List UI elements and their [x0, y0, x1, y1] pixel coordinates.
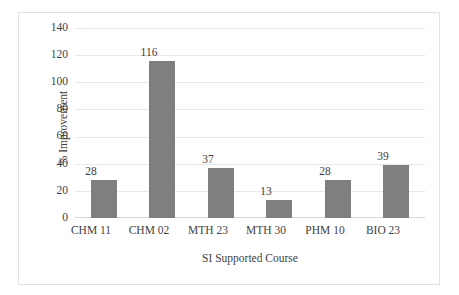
bar-chart-figure: % Improvement 140 120 100 80 60 40 20 0 … — [0, 0, 459, 295]
bar-phm-10[interactable] — [325, 180, 351, 218]
y-tick-label-20: 20 — [34, 185, 68, 197]
bar-chm-02[interactable] — [149, 61, 175, 218]
y-tick-label-140: 140 — [34, 22, 68, 34]
data-label-bio-23: 39 — [354, 151, 412, 163]
x-tick-label-chm-02: CHM 02 — [120, 224, 178, 237]
y-tick-label-100: 100 — [34, 76, 68, 88]
y-tick-label-120: 120 — [34, 49, 68, 61]
y-tick-label-80: 80 — [34, 103, 68, 115]
data-label-mth-23: 37 — [179, 154, 237, 166]
gridline-140 — [75, 28, 425, 29]
axis-baseline — [75, 217, 425, 218]
gridline-60 — [75, 137, 425, 138]
data-label-chm-02: 116 — [120, 47, 178, 59]
data-label-chm-11: 28 — [62, 166, 120, 178]
data-label-mth-30: 13 — [237, 186, 295, 198]
y-tick-label-0: 0 — [34, 212, 68, 224]
x-tick-label-chm-11: CHM 11 — [62, 224, 120, 237]
bar-chm-11[interactable] — [91, 180, 117, 218]
data-label-phm-10: 28 — [296, 166, 354, 178]
bar-bio-23[interactable] — [383, 165, 409, 218]
x-tick-label-mth-30: MTH 30 — [237, 224, 295, 237]
x-axis-title: SI Supported Course — [75, 252, 425, 264]
bar-mth-30[interactable] — [266, 200, 292, 218]
bar-mth-23[interactable] — [208, 168, 234, 218]
x-tick-label-mth-23: MTH 23 — [179, 224, 237, 237]
gridline-100 — [75, 82, 425, 83]
y-tick-label-60: 60 — [34, 130, 68, 142]
gridline-40 — [75, 164, 425, 165]
gridline-80 — [75, 109, 425, 110]
x-tick-label-phm-10: PHM 10 — [296, 224, 354, 237]
x-tick-label-bio-23: BIO 23 — [354, 224, 412, 237]
